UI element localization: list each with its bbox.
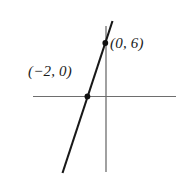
graph-figure: (0, 6) (−2, 0) [0, 0, 191, 182]
point-marker-x-intercept [85, 94, 91, 100]
label-y-intercept: (0, 6) [110, 35, 144, 52]
point-marker-y-intercept [102, 40, 108, 46]
label-x-intercept: (−2, 0) [28, 63, 72, 80]
coordinate-plane [0, 0, 191, 182]
